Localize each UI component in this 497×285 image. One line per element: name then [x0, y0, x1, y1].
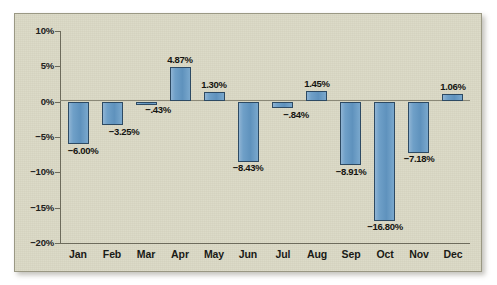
plot-area: 10%5%0%−5%−10%−15%−20% −6.00%−3.25%−.43%… [15, 14, 481, 271]
y-axis-tick [55, 208, 61, 209]
y-axis-tick-label: 10% [14, 26, 54, 36]
y-axis-tick [55, 66, 61, 67]
x-axis-line [60, 243, 470, 244]
bar-jun[interactable] [238, 102, 259, 162]
y-axis-tick-label: 5% [14, 61, 54, 71]
y-axis-tick-label: −5% [14, 132, 54, 142]
bar-value-label-apr: 4.87% [152, 54, 208, 65]
bar-value-label-sep: −8.91% [323, 166, 379, 177]
bar-value-label-feb: −3.25% [96, 126, 152, 137]
chart-panel: 10%5%0%−5%−10%−15%−20% −6.00%−3.25%−.43%… [14, 13, 482, 272]
x-axis-label-jun: Jun [228, 248, 268, 260]
bar-value-label-jan: −6.00% [55, 145, 111, 156]
bar-jan[interactable] [68, 102, 89, 144]
bar-aug[interactable] [306, 91, 327, 101]
bar-nov[interactable] [408, 102, 429, 153]
y-axis-tick [55, 172, 61, 173]
bar-value-label-aug: 1.45% [289, 78, 345, 89]
bar-value-label-oct: −16.80% [357, 221, 413, 232]
y-axis-tick [55, 137, 61, 138]
bar-value-label-dec: 1.06% [425, 81, 481, 92]
bar-value-label-jun: −8.43% [220, 162, 276, 173]
bar-feb[interactable] [102, 102, 123, 125]
y-axis-tick [55, 31, 61, 32]
y-axis-tick [55, 102, 61, 103]
x-axis-label-dec: Dec [433, 248, 473, 260]
y-axis-tick-label: −10% [14, 167, 54, 177]
bar-jul[interactable] [272, 102, 293, 108]
bar-sep[interactable] [340, 102, 361, 165]
bar-value-label-may: 1.30% [186, 79, 242, 90]
y-axis-tick-label: −20% [14, 238, 54, 248]
y-axis-tick-label: −15% [14, 203, 54, 213]
zero-baseline [60, 100, 470, 101]
bar-dec[interactable] [442, 94, 463, 101]
bar-value-label-nov: −7.18% [391, 153, 447, 164]
bar-may[interactable] [204, 92, 225, 101]
y-axis-tick-label: 0% [14, 97, 54, 107]
bar-value-label-mar: −.43% [130, 104, 186, 115]
y-axis-tick [55, 243, 61, 244]
bar-value-label-jul: −.84% [268, 109, 324, 120]
